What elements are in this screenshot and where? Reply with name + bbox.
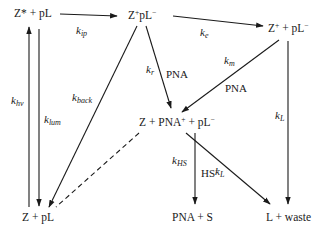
node-ground-state: Z + pL bbox=[22, 211, 54, 224]
label-kr: kr bbox=[146, 63, 155, 77]
label-kr-reagent: PNA bbox=[166, 68, 188, 80]
arrow-km bbox=[182, 40, 279, 112]
label-kip: kip bbox=[76, 24, 87, 38]
node-pna-s: PNA + S bbox=[172, 211, 213, 223]
label-kL-diag: kL bbox=[215, 165, 225, 179]
arrow-ke bbox=[173, 16, 263, 26]
label-kHS: kHS bbox=[172, 154, 187, 168]
label-klum: klum bbox=[44, 113, 61, 127]
label-km-reagent: PNA bbox=[225, 82, 247, 94]
node-l-waste: L + waste bbox=[266, 211, 311, 223]
node-separated-ions: Z+ + pL− bbox=[268, 21, 309, 35]
label-kL-right: kL bbox=[275, 109, 285, 123]
label-khv: khv bbox=[11, 94, 24, 108]
arrow-kback bbox=[49, 26, 137, 207]
node-excited-state: Z* + pL bbox=[14, 7, 52, 20]
reaction-scheme-diagram: Z* + pL Z+pL− Z+ + pL− Z + PNA+ + pL− Z … bbox=[0, 0, 326, 234]
label-km: km bbox=[224, 54, 235, 68]
label-ke: ke bbox=[200, 26, 209, 40]
node-pna-complex: Z + PNA+ + pL− bbox=[139, 115, 215, 129]
label-kback: kback bbox=[72, 91, 92, 105]
dashed-return-line bbox=[56, 133, 139, 207]
node-ion-pair: Z+pL− bbox=[128, 8, 156, 22]
arrow-kip bbox=[60, 14, 117, 16]
arrow-kL-diag bbox=[186, 133, 270, 204]
